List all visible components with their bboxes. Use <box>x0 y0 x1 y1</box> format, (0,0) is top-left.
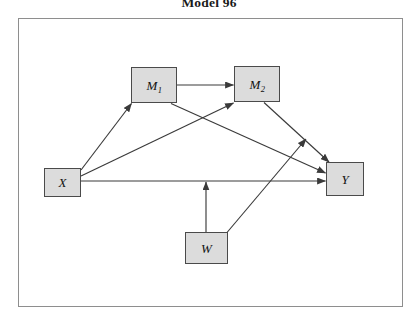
node-x-label: X <box>59 176 67 189</box>
node-m2-label: M2 <box>249 78 264 91</box>
node-m2[interactable]: M2 <box>234 66 280 102</box>
node-y-label: Y <box>341 173 348 186</box>
node-w-label: W <box>201 242 212 255</box>
edge-m2-to-y <box>264 103 329 163</box>
node-m1-label: M1 <box>146 79 161 92</box>
node-y[interactable]: Y <box>326 162 364 196</box>
node-w[interactable]: W <box>185 232 228 264</box>
node-x[interactable]: X <box>44 168 81 197</box>
edge-w-to-y <box>227 139 306 233</box>
node-m1[interactable]: M1 <box>131 67 177 103</box>
edge-x-to-m1 <box>81 104 132 171</box>
